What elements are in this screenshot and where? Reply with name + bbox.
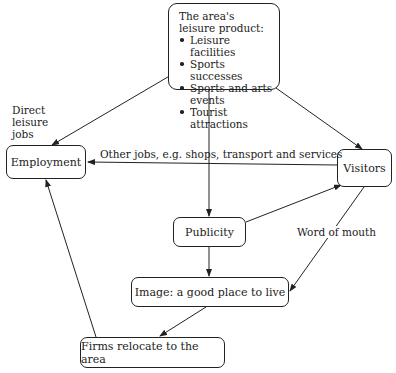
label-line: jobs [12,128,48,140]
leisure-product-item: Sports successes [190,58,275,82]
node-employment: Employment [6,145,86,179]
node-visitors: Visitors [337,149,392,187]
image-label: Image: a good place to live [135,286,286,299]
firms-label: Firms relocate to the area [81,340,224,366]
node-publicity: Publicity [173,217,246,247]
node-image: Image: a good place to live [131,277,289,307]
employment-label: Employment [11,156,81,169]
edge-visitors-image [290,187,364,291]
leisure-product-title-1: The area's [179,10,275,22]
label-line: Direct [12,104,48,116]
label-line: leisure [12,116,48,128]
edge-image-firms [160,307,206,336]
label-other-jobs: Other jobs, e.g. shops, transport and se… [100,148,342,160]
node-firms-relocate: Firms relocate to the area [80,337,225,368]
node-leisure-product: The area's leisure product: Leisure faci… [168,3,280,90]
leisure-product-item: Leisure facilities [190,34,275,58]
leisure-product-item: Sports and arts events [190,82,275,106]
leisure-product-list: Leisure facilities Sports successes Spor… [179,34,275,130]
leisure-product-title-2: leisure product: [179,22,275,34]
label-word-of-mouth: Word of mouth [296,226,377,238]
leisure-product-item: Tourist attractions [190,106,275,130]
edge-product-visitors [276,88,362,149]
edge-firms-employment [46,180,96,337]
edge-visitors-employment [88,162,337,165]
publicity-label: Publicity [185,226,234,239]
edge-publicity-visitors [246,185,341,222]
visitors-label: Visitors [343,162,385,175]
label-direct-leisure-jobs: Direct leisure jobs [12,104,48,140]
